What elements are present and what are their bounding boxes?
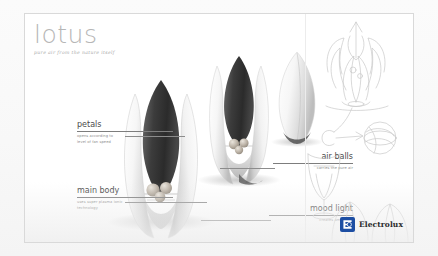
- tagline: pure air from the nature itself: [34, 50, 115, 55]
- leader-line-mood-light: [201, 220, 271, 221]
- electrolux-wordmark: Electrolux: [359, 220, 403, 229]
- presentation-board: lotus pure air from the nature itself pe…: [24, 13, 414, 243]
- callout-description: uses super plasma ionic technology: [77, 200, 173, 211]
- electrolux-logo: Electrolux: [340, 217, 403, 232]
- callout-rule: [77, 197, 173, 198]
- poster-canvas: lotus pure air from the nature itself pe…: [0, 0, 438, 256]
- electrolux-e-mark-icon: [340, 217, 355, 232]
- page-title: lotus: [34, 22, 115, 47]
- sketch-panel: [305, 14, 413, 243]
- callout-title: petals: [77, 120, 173, 129]
- callout-petals: petals opens according to level of fan s…: [77, 120, 173, 145]
- leader-line-air-balls: [220, 168, 275, 169]
- callout-main-body: main body uses super plasma ionic techno…: [77, 186, 173, 211]
- callout-description: opens according to level of fan speed: [77, 134, 173, 145]
- callout-title: main body: [77, 186, 173, 195]
- title-block: lotus pure air from the nature itself: [34, 22, 115, 55]
- callout-rule: [77, 131, 173, 132]
